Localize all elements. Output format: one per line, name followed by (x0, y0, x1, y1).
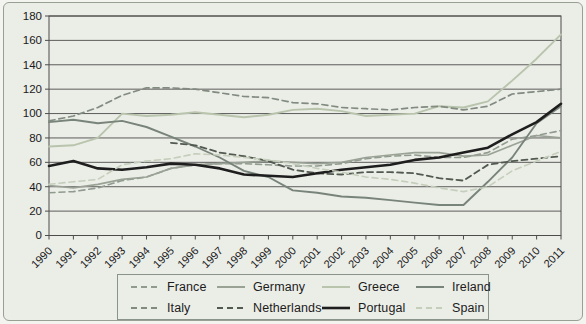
y-tick-label: 80 (29, 132, 42, 144)
legend-item-greece: Greece (321, 280, 415, 294)
legend-swatch-line (216, 305, 246, 311)
legend-label: Spain (452, 301, 484, 315)
series-line-germany (49, 136, 561, 188)
series-line-italy (49, 88, 561, 121)
legend-swatch-line (130, 305, 160, 311)
x-tick-label: 1992 (77, 244, 103, 270)
legend-item-ireland: Ireland (415, 280, 491, 294)
x-tick-label: 2011 (541, 244, 566, 269)
legend-label: Germany (253, 280, 305, 294)
x-tick-label: 1995 (151, 244, 177, 270)
legend-item-germany: Germany (216, 280, 321, 294)
x-tick-label: 1993 (102, 244, 128, 270)
x-tick-label: 1999 (248, 244, 274, 270)
chart-legend: France Germany Greece Ireland Italy Neth… (117, 274, 489, 320)
legend-swatch-line (130, 284, 160, 290)
y-tick-label: 40 (29, 181, 42, 193)
legend-item-netherlands: Netherlands (216, 301, 321, 315)
x-tick-label: 2000 (272, 244, 298, 270)
y-tick-label: 140 (23, 59, 42, 71)
legend-swatch-line (415, 284, 445, 290)
legend-swatch-line (415, 305, 445, 311)
legend-swatch-line (216, 284, 246, 290)
figure-frame: 0204060801001201401601801990199119921993… (3, 2, 583, 321)
legend-label: Ireland (452, 280, 491, 294)
x-tick-label: 2004 (370, 244, 396, 270)
x-tick-label: 1996 (175, 244, 201, 270)
x-tick-label: 2008 (467, 244, 493, 270)
legend-item-italy: Italy (130, 301, 216, 315)
series-line-france (49, 131, 561, 193)
legend-label: Italy (167, 301, 190, 315)
legend-item-portugal: Portugal (321, 301, 415, 315)
x-tick-label: 2005 (394, 244, 420, 270)
x-tick-label: 1997 (199, 244, 225, 270)
legend-item-spain: Spain (415, 301, 491, 315)
x-tick-label: 2003 (346, 244, 372, 270)
x-tick-label: 2006 (419, 244, 445, 270)
chart-plot: 0204060801001201401601801990199119921993… (4, 3, 583, 273)
legend-item-france: France (130, 280, 216, 294)
legend-swatch-line (321, 284, 351, 290)
x-tick-label: 2007 (443, 244, 469, 270)
legend-label: Netherlands (253, 301, 322, 315)
legend-label: Greece (358, 280, 400, 294)
y-tick-label: 160 (23, 34, 42, 46)
y-tick-label: 120 (23, 83, 42, 95)
x-tick-label: 2009 (492, 244, 518, 270)
legend-label: Portugal (358, 301, 405, 315)
series-line-greece (49, 34, 561, 146)
x-tick-label: 1990 (29, 244, 55, 270)
y-tick-label: 180 (23, 10, 42, 22)
x-tick-label: 1994 (126, 244, 152, 270)
x-tick-label: 2002 (321, 244, 347, 270)
x-tick-label: 2010 (516, 244, 542, 270)
y-tick-label: 100 (23, 107, 42, 119)
x-tick-label: 1991 (53, 244, 79, 270)
x-tick-label: 2001 (297, 244, 323, 270)
x-tick-label: 1998 (224, 244, 250, 270)
plot-border (49, 16, 561, 236)
y-tick-label: 20 (29, 205, 42, 217)
legend-label: France (167, 280, 207, 294)
y-tick-label: 60 (29, 156, 42, 168)
y-tick-label: 0 (36, 229, 42, 241)
legend-swatch-line (321, 305, 351, 311)
